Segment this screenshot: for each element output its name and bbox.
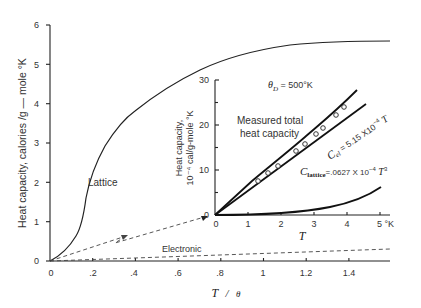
x-tick: .6 bbox=[174, 268, 182, 278]
y-tick: 3 bbox=[34, 138, 39, 148]
main-x-axis-label: T / θ bbox=[211, 283, 241, 300]
x-tick: 1 bbox=[245, 219, 250, 229]
inset-x-axis-label: T bbox=[299, 229, 307, 243]
x-tick: .8 bbox=[216, 268, 224, 278]
x-tick: .2 bbox=[89, 268, 97, 278]
y-tick: 4 bbox=[34, 99, 39, 109]
main-x-tick-labels: 0 .2 .4 .6 .8 1 1.2 1.4 bbox=[48, 268, 355, 278]
svg-text:Measured total: Measured total bbox=[237, 115, 303, 126]
main-y-tick-labels: 0 1 2 3 4 5 6 bbox=[34, 20, 39, 266]
x-tick: .4 bbox=[130, 268, 138, 278]
c-lattice-label: Clattice=.0627 X 10−4 T3 bbox=[300, 165, 388, 179]
y-tick: 20 bbox=[199, 120, 209, 130]
zoom-indicator-arrows bbox=[50, 216, 208, 261]
svg-text:heat capacity: heat capacity bbox=[240, 128, 299, 139]
x-tick: 1.2 bbox=[300, 268, 313, 278]
main-y-axis-label: Heat capacity, calories /g — mole °K bbox=[16, 58, 28, 228]
inset-y-tick-labels: 0 10 20 30 bbox=[199, 75, 209, 220]
svg-text:Heat capacity,: Heat capacity, bbox=[174, 120, 184, 176]
inset-y-axis-label: Heat capacity, 10⁻⁴ cal/g-mole °K bbox=[174, 111, 195, 186]
y-tick: 30 bbox=[199, 75, 209, 85]
y-tick: 2 bbox=[34, 178, 39, 188]
x-tick: 4 bbox=[344, 219, 349, 229]
y-tick: 0 bbox=[34, 256, 39, 266]
x-tick: 5 °K bbox=[377, 219, 394, 229]
x-tick: 0 bbox=[213, 219, 218, 229]
electronic-line bbox=[50, 249, 390, 261]
y-tick: 0 bbox=[204, 210, 209, 220]
x-tick: 3 bbox=[311, 219, 316, 229]
inset-x-tick-labels: 0 1 2 3 4 5 °K bbox=[213, 219, 394, 229]
x-tick: 0 bbox=[48, 268, 53, 278]
y-tick: 10 bbox=[199, 165, 209, 175]
x-tick: 2 bbox=[278, 219, 283, 229]
electronic-label: Electronic bbox=[162, 244, 202, 254]
svg-text:10⁻⁴ cal/g-mole °K: 10⁻⁴ cal/g-mole °K bbox=[185, 111, 195, 186]
theta-d-label: θD = 500°K bbox=[268, 79, 313, 93]
y-tick: 1 bbox=[34, 217, 39, 227]
arrow-head-icon bbox=[121, 235, 128, 240]
x-tick: 1 bbox=[260, 268, 265, 278]
heat-capacity-chart: 0 1 2 3 4 5 6 0 .2 .4 .6 .8 1 1.2 1.4 T … bbox=[0, 0, 421, 308]
c-el-label: Cel = 5.15 X10−4 T bbox=[324, 111, 392, 163]
measured-label: Measured total heat capacity bbox=[237, 115, 303, 139]
lattice-label: Lattice bbox=[88, 177, 118, 188]
y-tick: 6 bbox=[34, 20, 39, 30]
x-tick: 1.4 bbox=[343, 268, 356, 278]
y-tick: 5 bbox=[34, 60, 39, 70]
